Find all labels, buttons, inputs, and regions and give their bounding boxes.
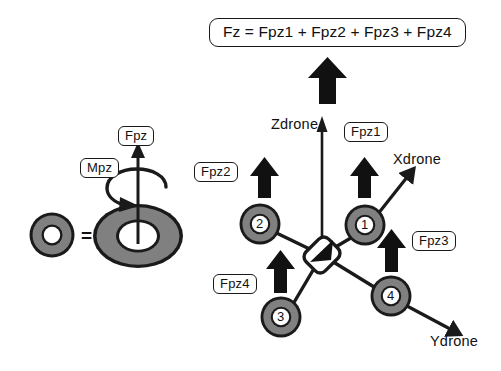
equals-sign: = (81, 226, 92, 245)
rotor-4-number: 4 (387, 289, 394, 302)
rotor-1-number: 1 (361, 218, 368, 231)
xdrone-axis-label: Xdrone (393, 152, 441, 167)
fpz4-arrow-icon (266, 250, 295, 293)
drone-force-diagram (0, 0, 501, 371)
fpz4-label-box: Fpz4 (213, 274, 257, 294)
mpz-label-box: Mpz (80, 158, 119, 178)
ydrone-axis-label: Ydrone (430, 334, 478, 349)
total-force-equation-box: Fz = Fpz1 + Fpz2 + Fpz3 + Fpz4 (209, 18, 466, 47)
drone-body (301, 234, 343, 276)
rotor-symbol-small-icon (30, 213, 75, 258)
fpz3-label-box: Fpz3 (412, 231, 456, 251)
fpz2-label-box: Fpz2 (194, 162, 238, 182)
zdrone-axis-label: Zdrone (271, 117, 318, 132)
zdrone-axis-arrow (317, 116, 328, 252)
fpz-label-box: Fpz (118, 126, 154, 146)
total-force-arrow-icon (308, 57, 347, 104)
fpz2-arrow-icon (250, 157, 279, 198)
rotor-3-number: 3 (277, 310, 284, 323)
figure-canvas: Fz = Fpz1 + Fpz2 + Fpz3 + Fpz4 Fpz Mpz =… (0, 0, 501, 371)
fpz1-arrow-icon (350, 157, 379, 198)
rotor-2-number: 2 (256, 217, 263, 230)
fpz1-label-box: Fpz1 (344, 122, 388, 142)
